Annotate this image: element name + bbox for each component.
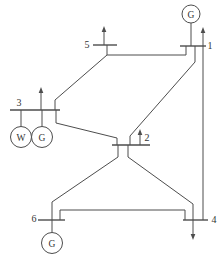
generator-bus1-letter: G <box>188 10 195 20</box>
generator-bus3-letter: G <box>39 133 46 143</box>
line-6-4 <box>60 210 185 220</box>
bus-3-label: 3 <box>17 97 22 108</box>
wind-unit-bus3-letter: W <box>17 133 26 143</box>
bus-5-label: 5 <box>85 39 90 50</box>
load-arrow-bus1-head <box>201 27 206 33</box>
line-5-3 <box>55 55 107 110</box>
diagram-canvas: 123456GWGG <box>0 0 222 263</box>
load-arrow-bus4-head <box>191 234 196 240</box>
load-arrow-bus2-head <box>138 129 143 135</box>
one-line-diagram: 123456GWGG <box>0 0 222 263</box>
line-5-1 <box>107 45 186 55</box>
bus-6-label: 6 <box>32 213 37 224</box>
bus-1-label: 1 <box>208 40 213 51</box>
line-2-4 <box>128 145 193 220</box>
generator-bus6-letter: G <box>49 239 56 249</box>
load-arrow-bus3-head <box>39 87 44 93</box>
load-arrow-bus5-head <box>102 26 107 32</box>
line-3-2 <box>56 110 117 145</box>
bus-4-label: 4 <box>212 214 217 225</box>
bus-2-label: 2 <box>145 132 150 143</box>
line-2-6 <box>52 145 118 220</box>
